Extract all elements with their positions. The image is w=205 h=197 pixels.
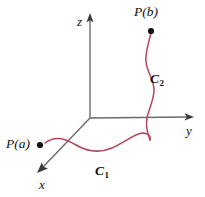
y-axis-label: y xyxy=(186,124,192,137)
z-axis xyxy=(86,13,93,118)
curve-c2-label: C2 xyxy=(150,72,164,86)
x-axis xyxy=(37,118,90,173)
line-integral-diagram: z y x P(b) P(a) C2 C1 xyxy=(0,0,205,197)
z-axis-label: z xyxy=(77,15,82,28)
point-b-label: P(b) xyxy=(134,5,158,19)
point-b-dot xyxy=(148,28,154,34)
y-axis xyxy=(90,113,194,120)
point-a-label: P(a) xyxy=(6,137,30,151)
point-a-dot xyxy=(37,142,43,148)
y-axis-line xyxy=(90,117,187,118)
curve-c1-label: C1 xyxy=(95,164,109,178)
x-axis-line xyxy=(43,118,90,167)
curve-c2-label-subscript: 2 xyxy=(160,78,165,88)
curve-c1-label-subscript: 1 xyxy=(105,170,110,180)
curve-c1-label-base: C xyxy=(95,163,104,178)
x-axis-label: x xyxy=(39,178,45,191)
curve-c2-label-base: C xyxy=(150,71,159,86)
curve-c2-path xyxy=(146,33,154,140)
